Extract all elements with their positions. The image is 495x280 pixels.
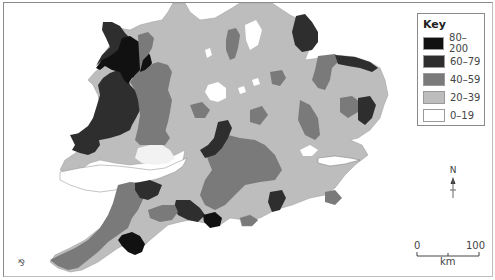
key-label-20-39: 20–39 bbox=[450, 92, 480, 103]
north-arrow: N bbox=[446, 165, 460, 199]
key-row-20-39: 20–39 bbox=[423, 90, 480, 104]
compass-mark-text: ⅋ bbox=[18, 258, 25, 268]
swatch-80-200 bbox=[423, 37, 444, 50]
scale-unit-label: km bbox=[440, 256, 456, 267]
key-row-0-19: 0–19 bbox=[423, 108, 474, 122]
scale-bar: 0 100 km bbox=[414, 240, 484, 270]
swatch-0-19 bbox=[423, 109, 445, 122]
key-row-60-79: 60–79 bbox=[423, 54, 480, 68]
swatch-60-79 bbox=[423, 55, 445, 68]
region-sussex-darkest bbox=[268, 190, 286, 212]
key-title: Key bbox=[423, 18, 446, 31]
key-row-40-59: 40–59 bbox=[423, 72, 480, 86]
swatch-40-59 bbox=[423, 73, 445, 86]
key-row-80-200: 80–200 bbox=[423, 36, 484, 50]
key-label-80-200: 80–200 bbox=[449, 32, 484, 54]
key-label-40-59: 40–59 bbox=[450, 74, 480, 85]
key-label-60-79: 60–79 bbox=[450, 56, 480, 67]
map-key: Key 80–200 60–79 40–59 20–39 0–19 bbox=[417, 13, 485, 126]
key-label-0-19: 0–19 bbox=[450, 110, 474, 121]
north-arrow-icon bbox=[446, 165, 460, 199]
region-kent-mid bbox=[325, 190, 342, 205]
swatch-20-39 bbox=[423, 91, 445, 104]
